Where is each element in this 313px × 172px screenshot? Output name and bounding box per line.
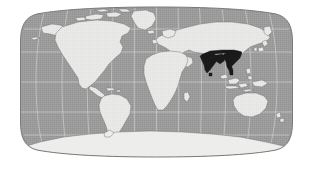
globe-group: [18, 5, 296, 159]
range-sri-lanka: [209, 73, 212, 76]
map-canvas: [0, 0, 313, 172]
world-distribution-map: World distribution map Global map showin…: [0, 0, 313, 172]
